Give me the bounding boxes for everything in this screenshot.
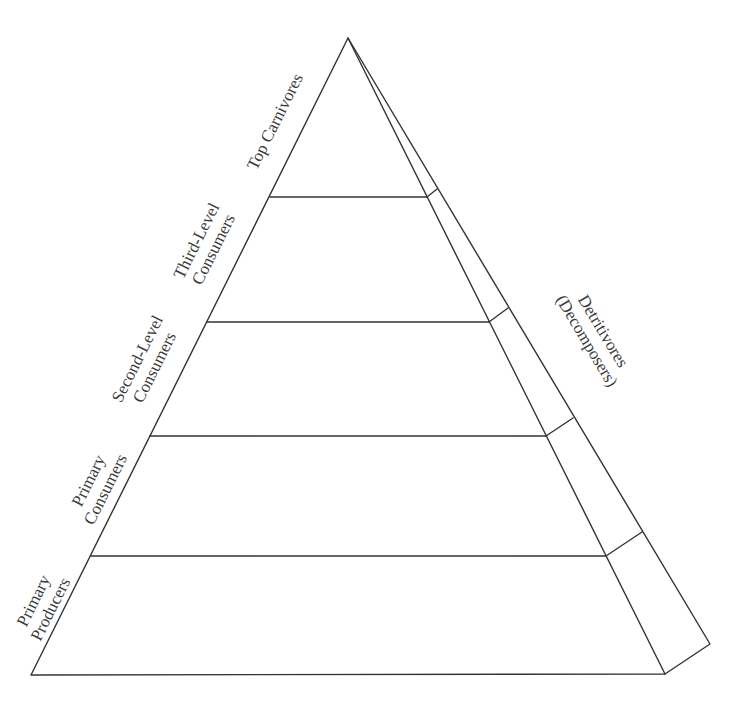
side-divider-4 <box>606 532 642 556</box>
side-divider-3 <box>546 418 573 436</box>
pyramid-diagram: Top Carnivores Third-Level Consumers Sec… <box>0 0 748 718</box>
side-face-outline <box>348 38 710 674</box>
front-face-outline <box>31 38 665 675</box>
side-divider-1 <box>427 189 437 197</box>
pyramid-drawing <box>0 0 748 718</box>
side-divider-2 <box>489 308 508 322</box>
